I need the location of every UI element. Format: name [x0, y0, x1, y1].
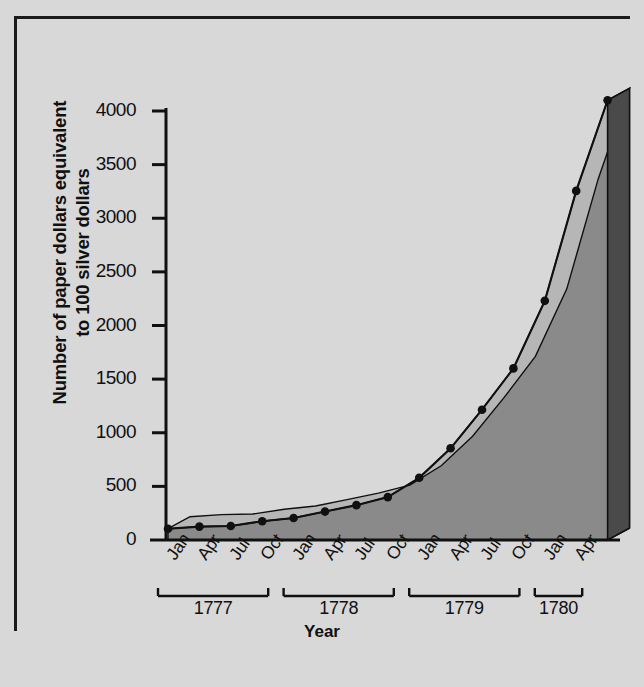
y-axis-tick-label: 4000: [40, 99, 136, 121]
x-axis-title: Year: [0, 622, 644, 642]
y-axis-tick-label: 500: [40, 474, 136, 496]
year-group-brackets: [158, 588, 582, 596]
y-axis-tick-label: 3500: [40, 153, 136, 175]
y-axis-tick-label: 1500: [40, 367, 136, 389]
year-group-label: 1780: [515, 598, 602, 619]
axis-tick-marks: [152, 111, 166, 486]
chart-figure: Number of paper dollars equivalent to 10…: [0, 0, 644, 687]
y-axis-tick-label: 0: [40, 528, 136, 550]
area-series-3d: [168, 88, 630, 540]
y-axis-tick-label: 3000: [40, 206, 136, 228]
y-axis-tick-label: 2500: [40, 260, 136, 282]
y-axis-tick-label: 1000: [40, 421, 136, 443]
y-axis-tick-label: 2000: [40, 314, 136, 336]
